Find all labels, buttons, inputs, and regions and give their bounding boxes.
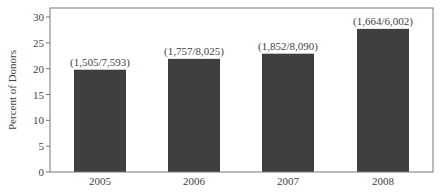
y-tick-label: 0 — [39, 166, 45, 178]
bar-value-label: (1,852/8,090) — [258, 40, 318, 53]
bar-value-label: (1,664/6,002) — [353, 15, 413, 28]
bar-chart: 051015202530 (1,505/7,593)2005(1,757/8,0… — [0, 0, 448, 193]
x-tick-label: 2008 — [372, 175, 395, 187]
bar-2007 — [262, 54, 314, 172]
y-tick-label: 15 — [33, 89, 45, 101]
y-tick-label: 30 — [33, 11, 45, 23]
y-axis: 051015202530 — [33, 11, 50, 178]
bar-2005 — [74, 70, 126, 172]
bar-value-label: (1,505/7,593) — [70, 56, 130, 69]
y-tick-label: 10 — [33, 114, 45, 126]
y-tick-label: 25 — [33, 37, 45, 49]
y-axis-label: Percent of Donors — [6, 50, 18, 130]
bar-value-label: (1,757/8,025) — [164, 45, 224, 58]
bars: (1,505/7,593)2005(1,757/8,025)2006(1,852… — [70, 15, 413, 187]
bar-2008 — [357, 29, 409, 172]
bar-2006 — [168, 59, 220, 172]
x-tick-label: 2007 — [277, 175, 300, 187]
chart-canvas: 051015202530 (1,505/7,593)2005(1,757/8,0… — [0, 0, 448, 193]
y-tick-label: 20 — [33, 63, 45, 75]
y-tick-label: 5 — [39, 140, 45, 152]
x-tick-label: 2005 — [89, 175, 112, 187]
x-tick-label: 2006 — [183, 175, 206, 187]
